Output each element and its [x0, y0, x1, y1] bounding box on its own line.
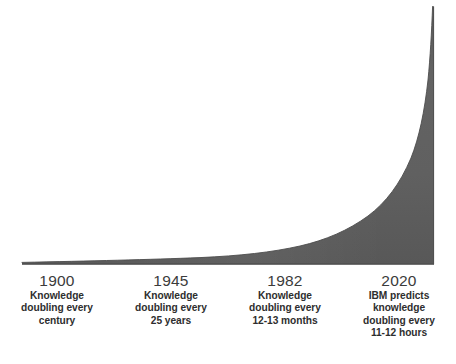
year-label-1982: 1982 — [230, 272, 340, 289]
timeline-entry-1982: 1982 Knowledge doubling every 12-13 mont… — [228, 272, 342, 327]
timeline-entry-2020: 2020 IBM predicts knowledge doubling eve… — [342, 272, 456, 340]
year-label-1945: 1945 — [116, 272, 226, 289]
timeline-labels: 1900 Knowledge doubling every century 19… — [0, 272, 456, 364]
timeline-entry-1900: 1900 Knowledge doubling every century — [0, 272, 114, 327]
year-label-2020: 2020 — [344, 272, 454, 289]
description-line: doubling every — [116, 302, 226, 314]
description-line: 11-12 hours — [344, 327, 454, 339]
exponential-curve-chart — [0, 0, 456, 270]
description-line: 12-13 months — [230, 315, 340, 327]
description-line: century — [2, 315, 112, 327]
timeline-entry-1945: 1945 Knowledge doubling every 25 years — [114, 272, 228, 327]
description-line: doubling every — [2, 302, 112, 314]
description-line: Knowledge — [116, 290, 226, 302]
year-label-1900: 1900 — [2, 272, 112, 289]
description-line: 25 years — [116, 315, 226, 327]
description-1945: Knowledge doubling every 25 years — [116, 290, 226, 327]
curve-sheen-overlay — [22, 7, 434, 265]
description-line: knowledge — [344, 302, 454, 314]
description-line: IBM predicts — [344, 290, 454, 302]
description-1982: Knowledge doubling every 12-13 months — [230, 290, 340, 327]
description-2020: IBM predicts knowledge doubling every 11… — [344, 290, 454, 340]
description-1900: Knowledge doubling every century — [2, 290, 112, 327]
description-line: doubling every — [344, 315, 454, 327]
description-line: Knowledge — [2, 290, 112, 302]
knowledge-doubling-figure: 1900 Knowledge doubling every century 19… — [0, 0, 456, 364]
chart-area — [0, 0, 456, 270]
description-line: doubling every — [230, 302, 340, 314]
description-line: Knowledge — [230, 290, 340, 302]
